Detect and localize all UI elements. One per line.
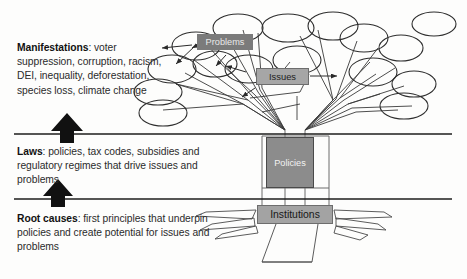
root-causes-text: Root causes: first principles that under…	[17, 212, 213, 255]
laws-text: Laws: policies, tax codes, subsidies and…	[17, 145, 213, 188]
issues-label: Issues	[256, 68, 309, 85]
problems-label: Problems	[197, 34, 253, 50]
diagram-canvas: Manifestations: voter suppression, corru…	[0, 0, 467, 279]
institutions-label: Institutions	[257, 205, 333, 224]
up-arrow-upper	[51, 113, 83, 143]
laws-lead: Laws	[17, 146, 43, 157]
manifestations-text: Manifestations: voter suppression, corru…	[17, 41, 177, 98]
root-causes-lead: Root causes	[17, 213, 78, 224]
manifestations-lead: Manifestations	[17, 42, 88, 53]
policies-label: Policies	[266, 137, 314, 188]
